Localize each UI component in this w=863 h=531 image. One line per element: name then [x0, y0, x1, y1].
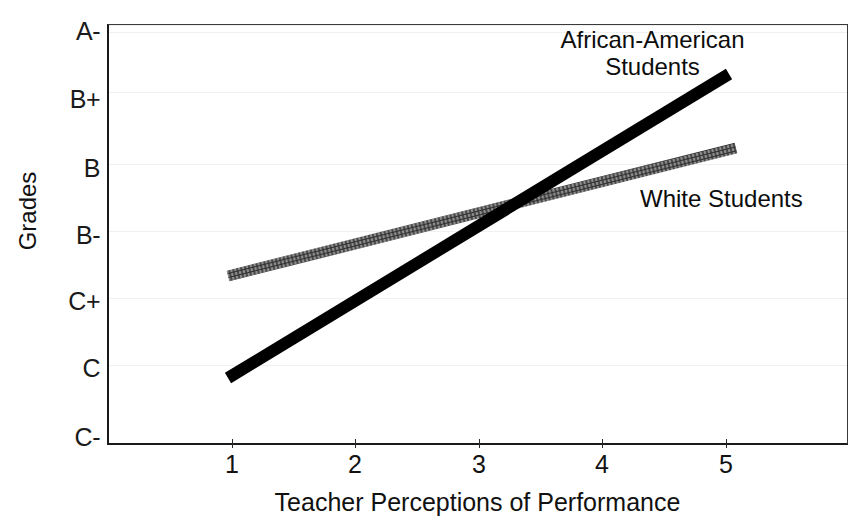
y-tick-b-plus: B+ [36, 87, 100, 112]
x-tick-mark-1 [232, 439, 233, 448]
y-tick-b: B [36, 156, 100, 181]
gridline-b-minus2 [109, 231, 847, 232]
x-tick-mark-3 [479, 439, 480, 448]
y-tick-b-minus: B- [36, 223, 100, 248]
gridline-c [109, 365, 847, 366]
x-tick-label-1: 1 [212, 452, 252, 477]
y-tick-c-minus: C- [36, 425, 100, 450]
gridline-b [109, 164, 847, 165]
gridline-c-plus [109, 298, 847, 299]
x-tick-mark-4 [602, 439, 603, 448]
series-label-african-american-students: African-American Students [545, 27, 760, 81]
x-tick-mark-2 [355, 439, 356, 448]
y-tick-c-plus: C+ [36, 289, 100, 314]
gridline-b-plus [109, 92, 847, 93]
y-tick-c: C [36, 356, 100, 381]
x-tick-label-2: 2 [335, 452, 375, 477]
plot-area [107, 24, 848, 445]
x-tick-label-4: 4 [582, 452, 622, 477]
x-axis-title: Teacher Perceptions of Performance [107, 488, 848, 517]
series-label-white-students: White Students [640, 186, 860, 213]
x-tick-label-3: 3 [459, 452, 499, 477]
y-tick-a-minus: A- [36, 19, 100, 44]
x-tick-label-5: 5 [706, 452, 746, 477]
scan-edge [0, 524, 863, 531]
y-axis-tick-labels: A- B+ B B- C+ C C- [0, 0, 100, 531]
chart-page: Grades A- B+ B B- C+ C C- 1 2 3 4 5 Teac… [0, 0, 863, 531]
x-tick-mark-5 [726, 439, 727, 448]
